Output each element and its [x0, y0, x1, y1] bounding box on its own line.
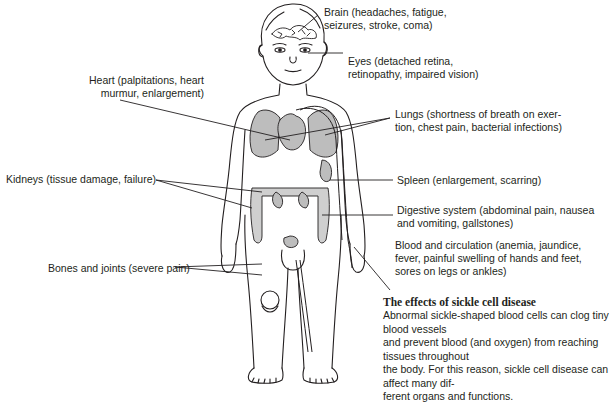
- label-lungs: Lungs (shortness of breath on exer- tion…: [395, 108, 562, 134]
- label-spleen: Spleen (enlargement, scarring): [397, 174, 541, 187]
- label-brain: Brain (headaches, fatigue, seizures, str…: [324, 6, 447, 32]
- label-heart: Heart (palpitations, heart murmur, enlar…: [52, 74, 204, 100]
- label-spleen-line1: Spleen (enlargement, scarring): [397, 174, 541, 187]
- right-lung: [308, 110, 338, 157]
- label-kidneys-line1: Kidneys (tissue damage, failure): [6, 173, 156, 186]
- label-blood-line2: fever, painful swelling of hands and fee…: [395, 252, 582, 265]
- brain-organ: [272, 26, 316, 41]
- label-heart-line1: Heart (palpitations, heart: [52, 74, 204, 87]
- label-blood-line1: Blood and circulation (anemia, jaundice,: [395, 239, 582, 252]
- caption-body: Abnormal sickle-shaped blood cells can c…: [383, 309, 613, 404]
- label-brain-line2: seizures, stroke, coma): [324, 19, 447, 32]
- left-lung: [250, 110, 280, 157]
- caption-line: Abnormal sickle-shaped blood cells can c…: [383, 309, 613, 336]
- label-digestive: Digestive system (abdominal pain, nausea…: [397, 204, 594, 230]
- colon: [251, 188, 330, 243]
- label-bones-line1: Bones and joints (severe pain): [48, 262, 190, 275]
- label-bones: Bones and joints (severe pain): [48, 262, 190, 275]
- label-brain-line1: Brain (headaches, fatigue,: [324, 6, 447, 19]
- label-digestive-line1: Digestive system (abdominal pain, nausea: [397, 204, 594, 217]
- bladder: [284, 236, 298, 248]
- label-eyes-line1: Eyes (detached retina,: [348, 55, 479, 68]
- caption-title: The effects of sickle cell disease: [383, 295, 613, 309]
- label-blood: Blood and circulation (anemia, jaundice,…: [395, 239, 582, 278]
- caption-line: and prevent blood (and oxygen) from reac…: [383, 336, 613, 363]
- heart: [278, 114, 306, 150]
- spleen: [320, 160, 332, 182]
- caption: The effects of sickle cell disease Abnor…: [383, 295, 613, 404]
- label-heart-line2: murmur, enlargement): [52, 87, 204, 100]
- label-blood-line3: sores on legs or ankles): [395, 265, 582, 278]
- caption-line: ferent organs and functions.: [383, 390, 613, 404]
- label-lungs-line1: Lungs (shortness of breath on exer-: [395, 108, 562, 121]
- label-kidneys: Kidneys (tissue damage, failure): [6, 173, 156, 186]
- caption-line: the body. For this reason, sickle cell d…: [383, 363, 613, 390]
- organs: [250, 110, 338, 248]
- label-eyes: Eyes (detached retina, retinopathy, impa…: [348, 55, 479, 81]
- label-eyes-line2: retinopathy, impaired vision): [348, 68, 479, 81]
- label-lungs-line2: tion, chest pain, bacterial infections): [395, 121, 562, 134]
- label-digestive-line2: and vomiting, gallstones): [397, 217, 594, 230]
